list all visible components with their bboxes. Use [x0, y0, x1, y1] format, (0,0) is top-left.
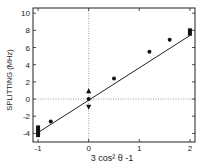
- y-tick-label: 6: [26, 44, 31, 53]
- y-tick-label: 10: [21, 9, 30, 18]
- circle-marker: [87, 97, 91, 101]
- y-tick-label: -2: [23, 112, 31, 121]
- x-tick-label: 1: [137, 144, 142, 153]
- y-tick-label: 2: [26, 78, 31, 87]
- triangle-up-marker: [86, 88, 91, 93]
- plot-frame: [33, 8, 195, 142]
- square-marker: [188, 32, 192, 36]
- y-tick-label: 0: [26, 95, 31, 104]
- circle-marker: [168, 38, 172, 42]
- y-tick-label: 8: [26, 26, 31, 35]
- circle-marker: [49, 119, 53, 123]
- triangle-down-marker: [86, 105, 91, 110]
- y-tick-label: -4: [23, 129, 31, 138]
- x-tick-label: 2: [188, 144, 193, 153]
- y-tick-label: 4: [26, 61, 31, 70]
- fit-line: [38, 35, 190, 132]
- y-axis-label: SPLITTING (MHz): [5, 49, 14, 111]
- x-tick-label: -1: [35, 144, 43, 153]
- circle-marker: [112, 76, 116, 80]
- axis-ticks: 1086420-2-4-1012: [21, 8, 195, 153]
- plot-axes: [33, 8, 195, 142]
- x-axis-label: 3 cos² θ -1: [91, 153, 134, 163]
- data-points: [36, 28, 192, 137]
- x-tick-label: 0: [86, 144, 91, 153]
- circle-marker: [147, 50, 151, 54]
- linear-fit-line: [38, 35, 190, 132]
- splitting-vs-angle-chart: 1086420-2-4-1012 3 cos² θ -1 SPLITTING (…: [0, 0, 202, 165]
- square-marker: [188, 28, 192, 32]
- reference-lines: [33, 8, 195, 142]
- square-marker: [36, 133, 40, 137]
